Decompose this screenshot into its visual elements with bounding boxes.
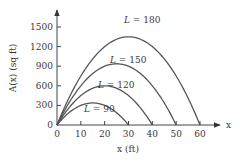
y-ticks: 030060090012001500 [30, 22, 61, 130]
y-tick-label: 600 [36, 81, 53, 91]
curve-label-L150: L = 150 [109, 55, 147, 65]
y-tick-label: 0 [47, 120, 53, 130]
x-ticks: 0102030405060 [54, 121, 206, 139]
y-tick-label: 300 [36, 100, 53, 110]
x-tick-label: 60 [194, 129, 206, 139]
y-tick-label: 1200 [30, 42, 53, 52]
curve-L150 [57, 64, 176, 125]
y-axis-label: A(x) (sq ft) [8, 44, 18, 94]
y-tick-label: 1500 [30, 22, 53, 32]
curve-labels: L = 90L = 120L = 150L = 180 [83, 15, 161, 114]
curve-label-L180: L = 180 [123, 15, 161, 25]
x-tick-label: 50 [170, 129, 182, 139]
x-tick-label: 10 [75, 129, 87, 139]
x-tick-label: 0 [54, 129, 60, 139]
y-tick-label: 900 [36, 61, 53, 71]
chart-figure: 0102030405060 030060090012001500 L = 90L… [0, 0, 240, 162]
x-axis-symbol: x [226, 120, 231, 130]
x-tick-label: 30 [123, 129, 135, 139]
x-tick-label: 20 [99, 129, 111, 139]
curve-label-L120: L = 120 [97, 80, 135, 90]
x-axis-label: x (ft) [117, 144, 139, 154]
curve-label-L90: L = 90 [83, 104, 115, 114]
x-tick-label: 40 [147, 129, 159, 139]
